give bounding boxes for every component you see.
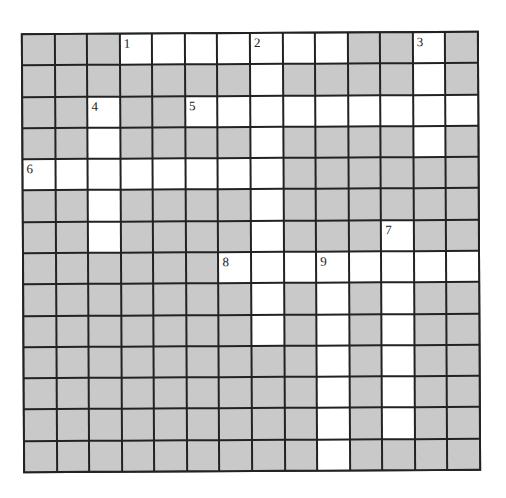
blocked-cell <box>154 285 185 314</box>
blocked-cell <box>186 65 217 94</box>
open-cell[interactable] <box>318 409 349 438</box>
open-cell[interactable] <box>317 315 348 344</box>
blocked-cell <box>446 33 477 62</box>
open-cell[interactable] <box>251 96 282 125</box>
open-cell[interactable] <box>88 129 119 158</box>
open-cell[interactable] <box>252 284 283 313</box>
open-cell[interactable] <box>252 190 283 219</box>
open-cell[interactable]: 9 <box>317 252 348 281</box>
open-cell[interactable] <box>383 346 414 375</box>
open-cell[interactable] <box>414 64 445 93</box>
blocked-cell <box>122 254 153 283</box>
open-cell[interactable] <box>414 96 445 125</box>
open-cell[interactable] <box>414 127 445 156</box>
open-cell[interactable] <box>349 96 380 125</box>
open-cell[interactable] <box>219 97 250 126</box>
blocked-cell <box>123 441 154 470</box>
blocked-cell <box>122 347 153 376</box>
blocked-cell <box>24 223 55 252</box>
blocked-cell <box>349 65 380 94</box>
blocked-cell <box>55 35 86 64</box>
blocked-cell <box>25 410 56 439</box>
open-cell[interactable] <box>447 252 478 281</box>
blocked-cell <box>448 408 479 437</box>
blocked-cell <box>153 66 184 95</box>
open-cell[interactable] <box>350 252 381 281</box>
blocked-cell <box>220 284 251 313</box>
open-cell[interactable] <box>121 160 152 189</box>
blocked-cell <box>285 315 316 344</box>
open-cell[interactable] <box>383 377 414 406</box>
open-cell[interactable]: 1 <box>121 35 152 64</box>
blocked-cell <box>122 222 153 251</box>
blocked-cell <box>382 127 413 156</box>
open-cell[interactable] <box>383 409 414 438</box>
blocked-cell <box>57 379 88 408</box>
open-cell[interactable] <box>381 96 412 125</box>
open-cell[interactable] <box>89 160 120 189</box>
open-cell[interactable] <box>318 378 349 407</box>
blocked-cell <box>218 65 249 94</box>
blocked-cell <box>382 190 413 219</box>
blocked-cell <box>188 410 219 439</box>
open-cell[interactable]: 4 <box>88 97 119 126</box>
open-cell[interactable] <box>318 440 349 469</box>
open-cell[interactable] <box>316 33 347 62</box>
clue-number: 8 <box>222 255 229 268</box>
open-cell[interactable] <box>218 34 249 63</box>
open-cell[interactable] <box>252 253 283 282</box>
open-cell[interactable] <box>219 159 250 188</box>
open-cell[interactable] <box>89 191 120 220</box>
open-cell[interactable] <box>284 96 315 125</box>
blocked-cell <box>23 98 54 127</box>
open-cell[interactable] <box>153 34 184 63</box>
open-cell[interactable] <box>252 315 283 344</box>
blocked-cell <box>24 317 55 346</box>
open-cell[interactable] <box>89 222 120 251</box>
blocked-cell <box>383 440 414 469</box>
blocked-cell <box>448 440 479 469</box>
open-cell[interactable] <box>283 34 314 63</box>
open-cell[interactable] <box>252 222 283 251</box>
open-cell[interactable] <box>285 253 316 282</box>
open-cell[interactable] <box>186 34 217 63</box>
open-cell[interactable]: 2 <box>251 34 282 63</box>
blocked-cell <box>24 285 55 314</box>
open-cell[interactable] <box>318 346 349 375</box>
open-cell[interactable] <box>382 252 413 281</box>
open-cell[interactable]: 3 <box>414 33 445 62</box>
open-cell[interactable]: 6 <box>24 160 55 189</box>
open-cell[interactable] <box>415 252 446 281</box>
blocked-cell <box>350 377 381 406</box>
blocked-cell <box>220 378 251 407</box>
blocked-cell <box>349 33 380 62</box>
open-cell[interactable] <box>251 128 282 157</box>
blocked-cell <box>219 222 250 251</box>
open-cell[interactable] <box>317 284 348 313</box>
open-cell[interactable] <box>383 315 414 344</box>
blocked-cell <box>219 128 250 157</box>
open-cell[interactable] <box>251 65 282 94</box>
open-cell[interactable]: 8 <box>219 253 250 282</box>
blocked-cell <box>448 283 479 312</box>
blocked-cell <box>284 221 315 250</box>
open-cell[interactable]: 7 <box>382 221 413 250</box>
blocked-cell <box>186 128 217 157</box>
blocked-cell <box>448 377 479 406</box>
open-cell[interactable]: 5 <box>186 97 217 126</box>
open-cell[interactable] <box>154 159 185 188</box>
blocked-cell <box>349 127 380 156</box>
open-cell[interactable] <box>316 96 347 125</box>
blocked-cell <box>349 190 380 219</box>
blocked-cell <box>381 64 412 93</box>
blocked-cell <box>351 440 382 469</box>
open-cell[interactable] <box>251 159 282 188</box>
open-cell[interactable] <box>56 160 87 189</box>
blocked-cell <box>381 33 412 62</box>
open-cell[interactable] <box>382 283 413 312</box>
blocked-cell <box>57 348 88 377</box>
open-cell[interactable] <box>447 95 478 124</box>
blocked-cell <box>155 316 186 345</box>
blocked-cell <box>447 158 478 187</box>
open-cell[interactable] <box>186 159 217 188</box>
